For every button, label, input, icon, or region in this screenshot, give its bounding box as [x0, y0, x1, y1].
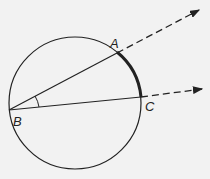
label-C: C [145, 99, 155, 114]
inscribed-angle-diagram: A B C [0, 0, 210, 179]
angle-marker-B [35, 96, 39, 107]
intercepted-arc-AC [117, 52, 141, 97]
ray-BA-extension [117, 10, 199, 53]
ray-BC-extension [141, 89, 202, 97]
label-B: B [13, 114, 22, 129]
label-A: A [109, 36, 119, 51]
